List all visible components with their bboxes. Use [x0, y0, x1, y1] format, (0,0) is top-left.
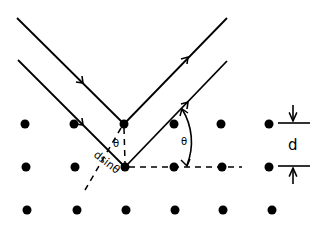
lattice-atom	[268, 206, 277, 215]
reflected-ray-2	[125, 61, 227, 167]
lattice-atom	[170, 120, 179, 129]
incident-rays	[17, 18, 125, 167]
lattice-atom	[22, 163, 31, 172]
lattice-atom	[265, 163, 274, 172]
lattice-atom	[23, 206, 32, 215]
theta-inner-label: θ	[113, 138, 119, 149]
reflected-rays	[124, 18, 227, 167]
reflected-ray-1	[124, 18, 227, 124]
lattice-atom	[122, 206, 131, 215]
lattice-atom	[21, 120, 30, 129]
spacing-label: d	[288, 136, 298, 154]
vertical-dashed-line	[124, 128, 125, 163]
lattice-atom	[217, 120, 226, 129]
bragg-diagram: θ θ dsinθ d	[0, 0, 324, 230]
incident-ray-2	[18, 60, 125, 167]
lattice	[21, 120, 277, 215]
lattice-atom	[71, 163, 80, 172]
incident-ray-1	[17, 18, 124, 124]
lattice-atom	[171, 206, 180, 215]
lattice-atom	[265, 120, 274, 129]
lattice-atom	[73, 206, 82, 215]
theta-arc-label: θ	[181, 136, 187, 147]
lattice-atom	[219, 206, 228, 215]
path-difference-label: dsinθ	[91, 148, 122, 177]
